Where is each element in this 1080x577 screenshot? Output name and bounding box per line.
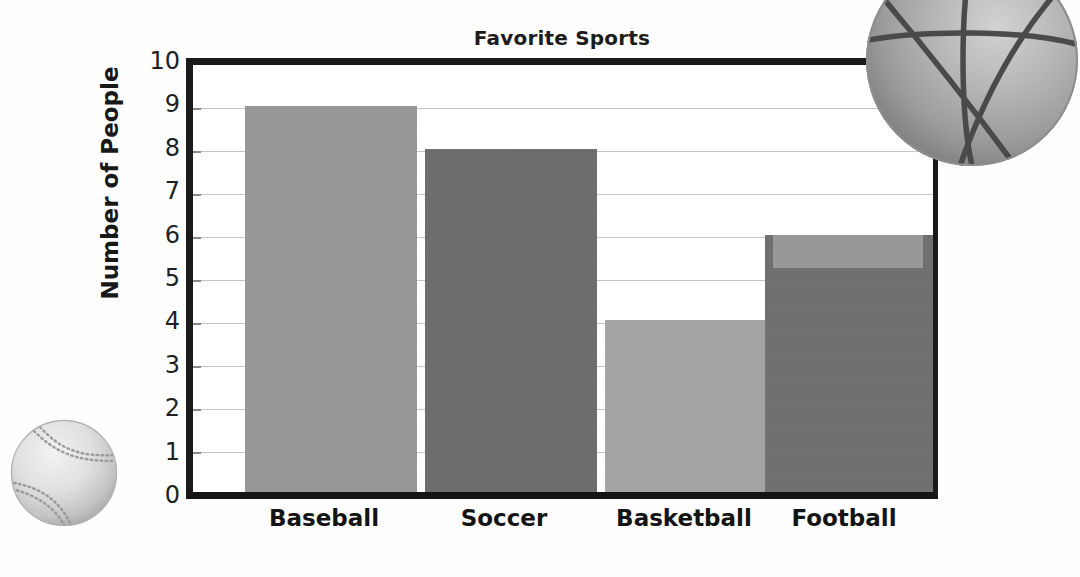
y-axis-tick-labels: 10 9 8 7 6 5 4 3 2 1 0 [132, 61, 180, 496]
y-tickmark [193, 194, 201, 196]
bar-basketball[interactable] [605, 320, 777, 492]
x-tick-label-baseball: Baseball [231, 505, 417, 531]
y-tickmark [193, 237, 201, 239]
y-tickmark [193, 409, 201, 411]
x-tick-label-football: Football [751, 505, 937, 531]
bar-texture [765, 235, 933, 492]
y-tick-label: 3 [132, 353, 180, 377]
basketball-icon [864, 0, 1080, 168]
bar-texture [605, 320, 777, 492]
y-tick-label: 4 [132, 309, 180, 333]
bar-texture [425, 149, 597, 492]
y-tick-label: 6 [132, 223, 180, 247]
bar-football[interactable] [765, 235, 933, 492]
y-tickmark [193, 366, 201, 368]
y-tick-label: 5 [132, 266, 180, 290]
chart-page: Favorite Sports Number of People 10 9 8 … [0, 0, 1080, 577]
x-axis-tick-labels: Baseball Soccer Basketball Football [186, 505, 938, 545]
x-tick-label-basketball: Basketball [591, 505, 777, 531]
y-tickmark [193, 280, 201, 282]
plot-area [186, 58, 938, 499]
page-title: Favorite Sports [186, 26, 938, 50]
y-tickmark [193, 323, 201, 325]
plot-inner [193, 65, 933, 492]
y-tick-label: 9 [132, 92, 180, 116]
y-tick-label: 10 [132, 49, 180, 73]
y-tickmark [193, 151, 201, 153]
baseball-icon [8, 417, 120, 529]
bar-texture [245, 106, 417, 492]
bar-baseball[interactable] [245, 106, 417, 492]
y-tick-label: 1 [132, 440, 180, 464]
y-tick-label: 7 [132, 179, 180, 203]
y-axis-label: Number of People [97, 53, 123, 313]
y-tick-label: 0 [132, 483, 180, 507]
y-tickmark [193, 452, 201, 454]
y-tickmark [193, 108, 201, 110]
y-tick-label: 8 [132, 136, 180, 160]
x-tick-label-soccer: Soccer [411, 505, 597, 531]
bar-soccer[interactable] [425, 149, 597, 492]
y-tick-label: 2 [132, 396, 180, 420]
